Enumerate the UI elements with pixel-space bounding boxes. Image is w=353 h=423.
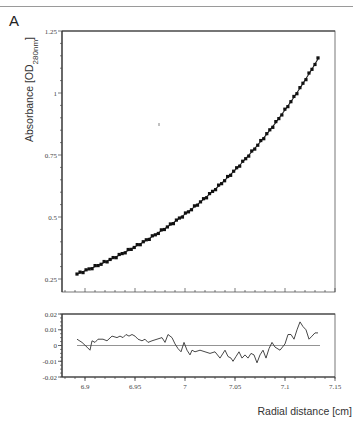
data-point — [193, 204, 196, 207]
data-point — [202, 197, 205, 200]
data-point — [181, 215, 184, 218]
data-point — [109, 258, 112, 261]
data-point — [226, 175, 229, 178]
data-point — [232, 170, 235, 173]
data-point — [301, 82, 304, 85]
data-point — [136, 243, 139, 246]
data-point — [166, 225, 169, 228]
data-point — [93, 264, 96, 267]
data-point — [277, 117, 280, 120]
data-point — [256, 144, 259, 147]
data-point — [259, 139, 262, 142]
data-point — [211, 190, 214, 193]
data-point — [127, 248, 130, 251]
y-tick-label: 1.25 — [45, 28, 58, 36]
x-tick-label: 7.05 — [229, 383, 242, 391]
y-tick-label: 0.01 — [45, 326, 58, 334]
data-point — [223, 179, 226, 182]
data-point — [235, 166, 238, 169]
data-point — [130, 248, 133, 251]
data-point — [304, 78, 307, 81]
x-tick-label: 7.1 — [281, 383, 290, 391]
data-point — [169, 222, 172, 225]
data-point — [313, 63, 316, 66]
data-point — [190, 208, 193, 211]
data-point — [289, 100, 292, 103]
y-tick-label: -0.01 — [42, 358, 57, 366]
data-point — [145, 238, 148, 241]
data-point — [238, 165, 241, 168]
x-axis-label: Radial distance [cm] — [257, 405, 352, 417]
data-point — [148, 238, 151, 241]
x-tick-label: 7 — [183, 383, 187, 391]
data-point — [160, 228, 163, 231]
data-point — [307, 71, 310, 74]
data-point — [115, 256, 118, 259]
data-point — [75, 272, 78, 275]
y-tick-label: 0 — [54, 342, 58, 350]
data-point — [220, 182, 223, 185]
data-point — [286, 105, 289, 108]
data-point — [178, 216, 181, 219]
data-point — [283, 108, 286, 111]
data-point — [244, 157, 247, 160]
data-point — [262, 137, 265, 140]
y-tick-label: -0.02 — [42, 374, 57, 382]
data-point — [90, 267, 93, 270]
data-point — [253, 147, 256, 150]
data-point — [199, 200, 202, 203]
y-tick-label: 0.5 — [48, 214, 57, 222]
data-point — [124, 251, 127, 254]
data-point — [163, 228, 166, 231]
data-point — [247, 155, 250, 158]
data-point — [142, 240, 145, 243]
data-point — [154, 233, 157, 236]
data-point — [81, 271, 84, 274]
residual-line — [77, 322, 318, 363]
data-point — [112, 256, 115, 259]
y-tick-label: 0.25 — [45, 276, 58, 284]
data-point — [175, 218, 178, 221]
data-point — [271, 126, 274, 129]
y-tick-label: 0.02 — [45, 311, 58, 319]
x-tick-label: 6.95 — [129, 383, 142, 391]
data-point — [208, 192, 211, 195]
data-point — [292, 95, 295, 98]
data-point — [316, 56, 319, 59]
data-point — [100, 263, 103, 266]
data-point — [133, 246, 136, 249]
x-tick-label: 7.15 — [329, 383, 342, 391]
chart-canvas: 1.2510.750.50.25 0.020.010-0.01-0.026.96… — [0, 0, 353, 423]
x-tick-label: 6.9 — [81, 383, 90, 391]
data-point — [280, 113, 283, 116]
data-point — [103, 260, 106, 263]
data-point — [78, 271, 81, 274]
data-point — [187, 210, 190, 213]
data-point — [84, 268, 87, 271]
data-point — [87, 267, 90, 270]
data-point — [205, 196, 208, 199]
data-point — [151, 234, 154, 237]
data-point — [268, 128, 271, 131]
data-point — [250, 149, 253, 152]
data-point — [196, 204, 199, 207]
data-point — [265, 132, 268, 135]
data-point — [172, 222, 175, 225]
data-point — [274, 120, 277, 123]
y-tick-label: 0.75 — [45, 152, 58, 160]
data-point — [241, 160, 244, 163]
data-point — [118, 253, 121, 256]
data-point — [298, 86, 301, 89]
data-point — [310, 68, 313, 71]
residual-plot: 0.020.010-0.01-0.026.96.9577.057.17.15 — [42, 311, 341, 392]
main-plot: 1.2510.750.50.25 — [45, 28, 335, 293]
y-tick-label: 1 — [54, 90, 58, 98]
data-point — [157, 232, 160, 235]
data-point — [121, 252, 124, 255]
data-point — [139, 243, 142, 246]
fit-line — [77, 59, 318, 274]
data-point — [295, 92, 298, 95]
data-point — [184, 211, 187, 214]
data-point — [106, 260, 109, 263]
y-axis-label: Absorbance [OD280nm] — [23, 37, 40, 142]
